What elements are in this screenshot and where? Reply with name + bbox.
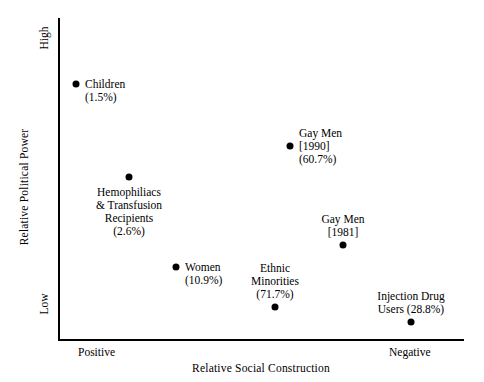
data-point-label-line: Ethnic xyxy=(251,262,299,275)
data-point-label: Gay Men[1990](60.7%) xyxy=(299,127,342,166)
x-axis-tick-negative: Negative xyxy=(389,346,431,358)
data-point xyxy=(287,143,294,150)
data-point-label: EthnicMinorities(71.7%) xyxy=(251,262,299,301)
data-point-label: Gay Men[1981] xyxy=(321,213,364,239)
data-point xyxy=(272,304,279,311)
data-point-label-line: Women xyxy=(185,261,222,274)
data-point-label-line: Recipients xyxy=(96,212,162,225)
y-axis-line xyxy=(58,18,60,341)
data-point xyxy=(408,319,415,326)
data-point xyxy=(73,81,80,88)
y-axis-tick-low: Low xyxy=(38,274,54,334)
data-point-label-line: (71.7%) xyxy=(251,288,299,301)
data-point xyxy=(340,242,347,249)
data-point-label: Injection DrugUsers (28.8%) xyxy=(377,290,444,316)
data-point-label-line: Injection Drug xyxy=(377,290,444,303)
data-point-label-line: Gay Men xyxy=(299,127,342,140)
x-axis-tick-positive: Positive xyxy=(78,346,115,358)
data-point-label: Children(1.5%) xyxy=(85,78,125,104)
data-point-label-line: (10.9%) xyxy=(185,274,222,287)
x-axis-line xyxy=(58,339,464,341)
y-axis-tick-high: High xyxy=(38,8,54,68)
data-point-label-line: Gay Men xyxy=(321,213,364,226)
scatter-plot-figure: Relative Political Power Relative Social… xyxy=(0,0,484,382)
data-point-label-line: Children xyxy=(85,78,125,91)
x-axis-title: Relative Social Construction xyxy=(58,362,464,374)
y-axis-title: Relative Political Power xyxy=(18,27,38,347)
data-point-label-line: Hemophiliacs xyxy=(96,186,162,199)
data-point-label-line: & Transfusion xyxy=(96,199,162,212)
data-point-label-line: (2.6%) xyxy=(96,225,162,238)
data-point-label-line: (1.5%) xyxy=(85,91,125,104)
data-point-label-line: (60.7%) xyxy=(299,153,342,166)
data-point-label: Hemophiliacs& TransfusionRecipients(2.6%… xyxy=(96,186,162,238)
data-point-label-line: Users (28.8%) xyxy=(377,303,444,316)
data-point-label-line: [1990] xyxy=(299,140,342,153)
data-point xyxy=(173,264,180,271)
data-point xyxy=(126,174,133,181)
data-point-label-line: Minorities xyxy=(251,275,299,288)
data-point-label-line: [1981] xyxy=(321,226,364,239)
data-point-label: Women(10.9%) xyxy=(185,261,222,287)
